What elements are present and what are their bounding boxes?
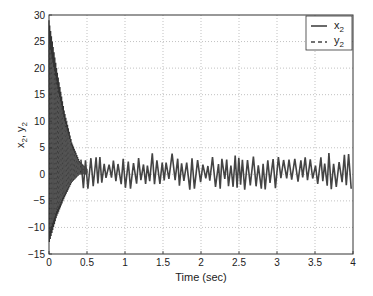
x-tick-label: 1.5 [156, 257, 170, 268]
y-tick-label: 20 [34, 63, 46, 74]
series-x2-line [81, 153, 351, 190]
x-tick-label: 2.5 [232, 257, 246, 268]
x-tick-label: 2 [198, 257, 204, 268]
x-axis-label: Time (sec) [175, 271, 227, 283]
x-tick-label: 3 [274, 257, 280, 268]
y-tick-label: 10 [34, 116, 46, 127]
transient-band [49, 20, 87, 242]
x-tick-label: 0 [46, 257, 52, 268]
x-tick-label: 4 [350, 257, 356, 268]
y-tick-label: 30 [34, 10, 46, 21]
y-tick-label: 15 [34, 89, 46, 100]
y-tick-label: 5 [39, 142, 45, 153]
y-tick-label: −10 [28, 222, 45, 233]
x-tick-label: 3.5 [308, 257, 322, 268]
x-tick-label: 1 [122, 257, 128, 268]
y-tick-label: 0 [39, 169, 45, 180]
legend: x2 y2 [306, 16, 352, 50]
y-axis-label: x2, y2 [14, 121, 29, 148]
grid-lines [49, 15, 353, 254]
y-tick-label: −15 [28, 249, 45, 260]
y-tick-label: 25 [34, 36, 46, 47]
plot-frame [49, 15, 353, 254]
chart: 00.511.522.533.54−15−10−5051015202530 x2… [0, 0, 373, 296]
y-tick-label: −5 [34, 195, 46, 206]
x-tick-label: 0.5 [80, 257, 94, 268]
